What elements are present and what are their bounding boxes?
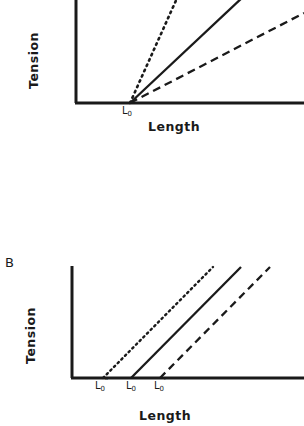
y-axis-label: Tension bbox=[26, 25, 41, 97]
tick-label-base: L bbox=[95, 380, 101, 391]
x-axis-label: Length bbox=[139, 408, 191, 423]
panel-b: B Tension L0″ L0 L0′ Length bbox=[0, 250, 304, 426]
tick-label-l0-double-prime: L0″ bbox=[95, 380, 108, 391]
y-axis-label: Tension bbox=[23, 300, 38, 372]
tick-label-sub: 0 bbox=[128, 110, 132, 118]
tick-label-prime: ″ bbox=[105, 377, 108, 388]
series-line-normal bbox=[131, 267, 241, 378]
series-line-normal bbox=[130, 0, 244, 103]
tick-label-l0: L0 bbox=[122, 105, 132, 116]
series-line-shallow bbox=[130, 13, 304, 103]
panel-a: Tension L0 Length bbox=[0, 0, 304, 140]
tick-label-base: L bbox=[126, 380, 132, 391]
tick-label-base: L bbox=[122, 105, 128, 116]
tick-label-l0-prime: L0′ bbox=[154, 380, 165, 391]
panel-b-plot bbox=[0, 250, 304, 426]
tick-label-l0: L0 bbox=[126, 380, 136, 391]
series-line-shifted-left bbox=[103, 267, 213, 378]
x-axis-label: Length bbox=[148, 119, 200, 134]
tick-label-base: L bbox=[154, 380, 160, 391]
series-line-shifted-right bbox=[160, 267, 270, 378]
series-line-steep bbox=[130, 0, 178, 103]
tick-label-sub: 0 bbox=[132, 385, 136, 393]
